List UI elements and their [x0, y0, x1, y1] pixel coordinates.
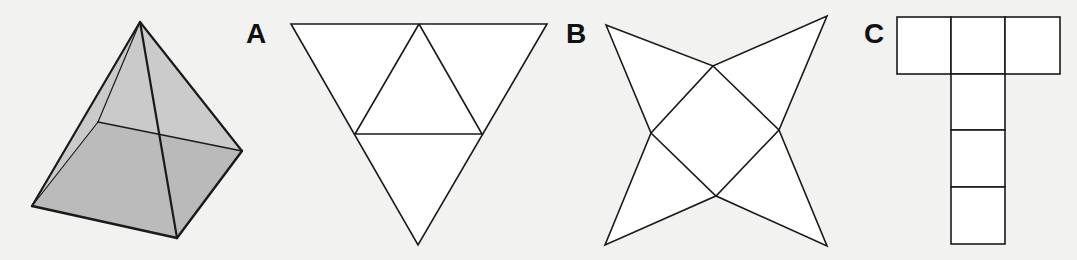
net-c-square: [951, 130, 1005, 187]
option-label-c: C: [864, 20, 884, 48]
net-b: [605, 16, 827, 246]
net-c-square: [897, 17, 951, 74]
net-c-square: [951, 187, 1005, 244]
net-b-outline: [605, 16, 827, 246]
figure-svg: [0, 0, 1077, 260]
option-label-b: B: [566, 20, 586, 48]
net-a: [291, 24, 547, 245]
net-c: [897, 17, 1060, 244]
option-label-a: A: [246, 20, 266, 48]
net-c-square: [951, 74, 1005, 130]
net-c-square: [1005, 17, 1060, 74]
net-c-square: [951, 17, 1005, 74]
square-pyramid: [32, 22, 242, 238]
figure-canvas: A B C: [0, 0, 1077, 260]
